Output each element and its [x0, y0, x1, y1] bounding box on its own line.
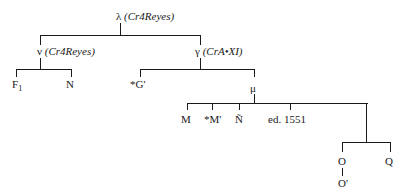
node-lambda: λ (Cr4Reyes): [116, 10, 174, 22]
node-Q: Q: [385, 155, 393, 167]
node-Mstar: *M': [204, 113, 221, 125]
node-nu-annotation: (Cr4Reyes): [45, 45, 95, 57]
node-ed1551: ed. 1551: [268, 113, 306, 125]
edge-line: [254, 69, 255, 77]
edge-line: [290, 103, 291, 110]
edge-line: [16, 69, 72, 70]
edge-line: [200, 35, 201, 45]
edge-line: [200, 58, 201, 69]
node-nu: ν (Cr4Reyes): [37, 45, 95, 57]
edge-line: [212, 103, 213, 110]
node-N: N: [66, 78, 74, 90]
node-Oprime: O': [338, 177, 348, 189]
edge-line: [120, 23, 121, 35]
node-gamma-symbol: γ: [195, 45, 200, 57]
edge-line: [187, 103, 368, 104]
edge-line: [140, 69, 141, 77]
edge-line: [40, 35, 41, 45]
edge-line: [390, 142, 391, 152]
edge-line: [187, 103, 188, 110]
edge-line: [342, 142, 343, 152]
node-lambda-annotation: (Cr4Reyes): [124, 10, 174, 22]
edge-line: [342, 142, 391, 143]
edge-line: [71, 69, 72, 77]
edge-line: [239, 103, 240, 110]
node-G: *G': [130, 78, 145, 90]
node-Ntilde: Ñ: [235, 113, 243, 125]
edge-line: [342, 168, 343, 176]
edge-line: [140, 69, 255, 70]
edge-line: [40, 58, 41, 69]
node-F1: F1: [12, 78, 22, 95]
node-gamma-annotation: (CrA•XI): [203, 45, 243, 57]
node-M: M: [181, 113, 191, 125]
node-mu: μ: [250, 82, 256, 94]
edge-line: [366, 103, 367, 142]
node-gamma: γ (CrA•XI): [195, 45, 243, 57]
node-lambda-symbol: λ: [116, 10, 121, 22]
node-O: O: [338, 155, 346, 167]
edge-line: [254, 94, 255, 103]
edge-line: [40, 35, 201, 36]
edge-line: [16, 69, 17, 77]
node-nu-symbol: ν: [37, 45, 42, 57]
